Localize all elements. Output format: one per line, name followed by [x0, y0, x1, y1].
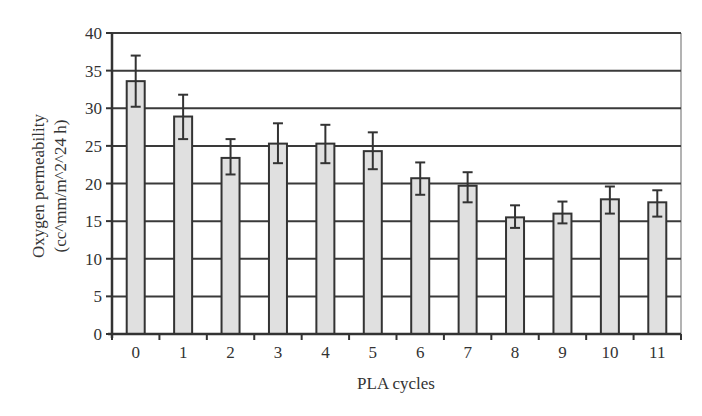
bar [506, 217, 524, 334]
x-tick-label: 10 [601, 343, 618, 362]
bar [316, 144, 334, 334]
bar [174, 117, 192, 334]
x-tick-label: 4 [321, 343, 330, 362]
bar-group [459, 172, 477, 334]
y-tick-label: 15 [85, 212, 102, 231]
x-axis-title: PLA cycles [357, 374, 435, 393]
x-tick-label: 3 [274, 343, 283, 362]
x-tick-label: 2 [226, 343, 235, 362]
x-tick-label: 7 [463, 343, 472, 362]
y-tick-label: 20 [85, 175, 102, 194]
y-axis-title: Oxygen permeability (cc^mm/m^2^24 h) [29, 114, 70, 258]
y-tick-label: 30 [85, 99, 102, 118]
bar [364, 151, 382, 334]
bar-group [174, 95, 192, 334]
y-tick-label: 5 [94, 287, 103, 306]
bar [411, 178, 429, 334]
x-tick-label: 8 [511, 343, 520, 362]
bar-group [127, 56, 145, 334]
bar-group [601, 187, 619, 334]
y-axis-title-line1: Oxygen permeability [29, 114, 48, 258]
bar-group [269, 123, 287, 334]
y-tick-label: 40 [85, 24, 102, 43]
bar-group [506, 205, 524, 334]
bar-group [648, 190, 666, 334]
y-tick-label: 0 [94, 325, 103, 344]
x-axis-ticks: 01234567891011 [112, 334, 681, 362]
x-tick-label: 11 [649, 343, 665, 362]
y-tick-label: 35 [85, 62, 102, 81]
bar-group [411, 162, 429, 334]
bar-chart: 0510152025303540 01234567891011 PLA cycl… [0, 0, 702, 416]
x-tick-label: 6 [416, 343, 425, 362]
bar [127, 81, 145, 334]
bar [269, 144, 287, 334]
bar-group [553, 202, 571, 334]
x-tick-label: 0 [131, 343, 140, 362]
bar-group [364, 132, 382, 334]
gridlines [112, 33, 681, 296]
bar [459, 186, 477, 334]
axes [108, 33, 681, 338]
x-tick-label: 9 [558, 343, 567, 362]
bar [648, 202, 666, 334]
y-axis-ticks: 0510152025303540 [85, 24, 112, 344]
bar [222, 158, 240, 334]
y-tick-label: 25 [85, 137, 102, 156]
bar-group [222, 139, 240, 334]
bar [601, 199, 619, 334]
bar [553, 214, 571, 334]
y-axis-title-line2: (cc^mm/m^2^24 h) [51, 120, 70, 253]
y-tick-label: 10 [85, 250, 102, 269]
bar-group [316, 125, 334, 334]
x-tick-label: 5 [369, 343, 378, 362]
bars [127, 56, 667, 334]
x-tick-label: 1 [179, 343, 188, 362]
